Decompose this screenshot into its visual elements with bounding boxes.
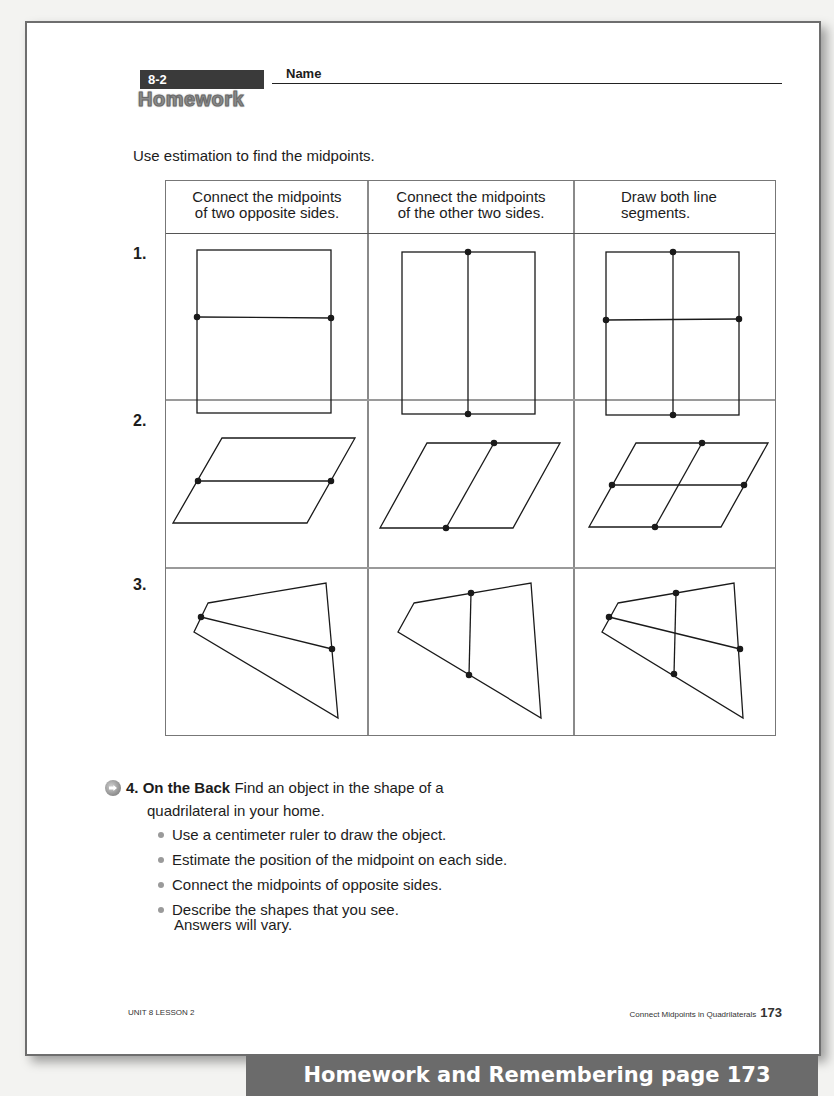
parallelogram-figure-2 bbox=[380, 440, 560, 530]
item-4: 4. On the Back Find an object in the sha… bbox=[105, 779, 444, 796]
page-number: 173 bbox=[760, 1005, 782, 1020]
item-4-label: On the Back bbox=[143, 779, 231, 796]
footer-unit-lesson: UNIT 8 LESSON 2 bbox=[128, 1008, 195, 1017]
rectangle-figure-1 bbox=[194, 250, 333, 413]
quadrilateral-figure-2 bbox=[398, 583, 541, 718]
item-4-number: 4. bbox=[126, 779, 139, 796]
parallelogram-figure-3 bbox=[589, 440, 768, 529]
parallelogram-figure-1 bbox=[173, 438, 355, 523]
quadrilateral-figure-3 bbox=[602, 583, 743, 718]
bullet-item: Connect the midpoints of opposite sides. bbox=[158, 876, 507, 901]
footer-lesson-title: Connect Midpoints in Quadrilaterals173 bbox=[630, 1005, 782, 1020]
rectangle-figure-2 bbox=[402, 249, 535, 416]
answer-note: Answers will vary. bbox=[174, 916, 292, 933]
item-4-text-line2: quadrilateral in your home. bbox=[147, 802, 325, 819]
arrow-circle-icon bbox=[105, 780, 121, 796]
item-4-bullets: Use a centimeter ruler to draw the objec… bbox=[158, 826, 507, 926]
bullet-item: Estimate the position of the midpoint on… bbox=[158, 851, 507, 876]
item-4-text: Find an object in the shape of a bbox=[234, 779, 443, 796]
rectangle-figure-3 bbox=[603, 249, 741, 417]
bullet-item: Use a centimeter ruler to draw the objec… bbox=[158, 826, 507, 851]
page-caption-banner: Homework and Remembering page 173 bbox=[246, 1054, 818, 1096]
quadrilateral-figure-1 bbox=[194, 583, 338, 718]
geometry-figures bbox=[0, 0, 834, 1096]
